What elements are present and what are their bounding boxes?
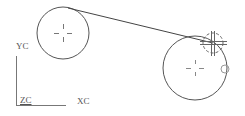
axis-label-yc: YC	[16, 42, 29, 51]
axis-label-zc: ZC	[20, 96, 32, 105]
cad-viewport[interactable]	[0, 0, 245, 116]
tangent-line[interactable]	[68, 8, 213, 43]
circle-2[interactable]	[163, 36, 227, 100]
circle-1[interactable]	[37, 7, 89, 59]
center-mark-icon	[186, 60, 204, 76]
small-circle-marker[interactable]	[221, 65, 229, 73]
axis-label-xc: XC	[77, 97, 90, 106]
center-mark-icon	[54, 24, 72, 42]
